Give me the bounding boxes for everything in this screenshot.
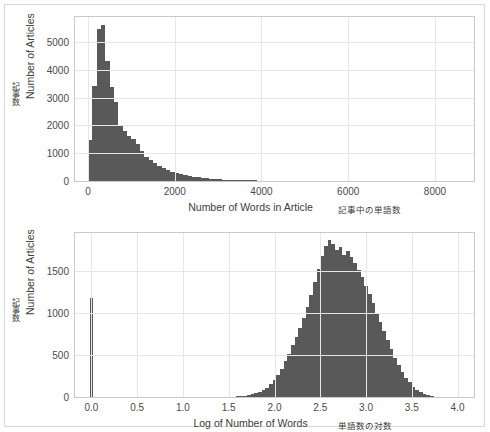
x-tick-label: 0 <box>85 186 91 197</box>
gridline-vertical <box>366 233 367 397</box>
gridline-horizontal <box>75 271 474 272</box>
plot-area-top <box>74 16 475 182</box>
y-axis-title-japanese-top: 記事数 <box>11 83 20 107</box>
x-tick-label: 1.0 <box>176 402 190 413</box>
gridline-horizontal <box>75 125 474 126</box>
gridline-vertical <box>320 233 321 397</box>
y-tick-label: 1000 <box>47 308 69 319</box>
y-tick-label: 1500 <box>47 266 69 277</box>
gridline-horizontal <box>75 42 474 43</box>
histogram-bar <box>430 396 434 397</box>
gridline-vertical <box>458 233 459 397</box>
x-tick-label: 0.0 <box>85 402 99 413</box>
gridline-vertical <box>91 233 92 397</box>
y-tick-label: 5000 <box>47 37 69 48</box>
gridline-horizontal <box>75 70 474 71</box>
figure-container: 02000400060008000 010002000300040005000 … <box>0 0 490 432</box>
x-tick-label: 6000 <box>337 186 359 197</box>
gridline-vertical <box>137 233 138 397</box>
x-tick-label: 0.5 <box>130 402 144 413</box>
x-tick-label: 2.0 <box>268 402 282 413</box>
gridline-vertical <box>183 233 184 397</box>
gridline-horizontal <box>75 313 474 314</box>
x-axis-title-top: Number of Words in Article <box>188 201 313 213</box>
x-axis-title-bottom: Log of Number of Words <box>193 417 307 429</box>
gridline-horizontal <box>75 355 474 356</box>
y-tick-label: 500 <box>52 350 69 361</box>
y-tick-label: 2000 <box>47 120 69 131</box>
x-tick-label: 2.5 <box>313 402 327 413</box>
chart-panel-log-words: 0.00.51.01.52.02.53.03.54.0 050010001500… <box>0 216 490 432</box>
gridline-vertical <box>412 233 413 397</box>
x-tick-label: 4000 <box>250 186 272 197</box>
y-tick-label: 1000 <box>47 148 69 159</box>
y-tick-label: 0 <box>63 176 69 187</box>
y-tick-label: 4000 <box>47 64 69 75</box>
x-tick-label: 3.0 <box>359 402 373 413</box>
x-tick-label: 3.5 <box>405 402 419 413</box>
y-tick-label: 3000 <box>47 92 69 103</box>
gridline-vertical <box>229 233 230 397</box>
gridline-vertical <box>275 233 276 397</box>
y-axis-title-japanese-bottom: 記事数 <box>11 299 20 323</box>
gridline-horizontal <box>75 98 474 99</box>
y-tick-label: 0 <box>63 392 69 403</box>
chart-panel-words-per-article: 02000400060008000 010002000300040005000 … <box>0 0 490 216</box>
plot-area-bottom <box>74 232 475 398</box>
x-tick-label: 1.5 <box>222 402 236 413</box>
x-axis-title-japanese-top: 記事中の単語数 <box>338 203 401 215</box>
x-axis-title-japanese-bottom: 単語数の対数 <box>338 419 392 431</box>
x-tick-label: 4.0 <box>451 402 465 413</box>
x-tick-label: 2000 <box>164 186 186 197</box>
x-tick-label: 8000 <box>424 186 446 197</box>
gridline-horizontal <box>75 153 474 154</box>
